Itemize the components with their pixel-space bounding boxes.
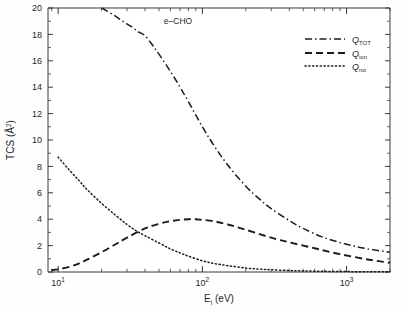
plot-frame — [48, 8, 390, 272]
x-axis-label: Ei (eV) — [204, 293, 234, 306]
tcs-chart: 02468101214161820 101102103 e–CHO QTOT Q… — [0, 0, 403, 313]
y-tick-label: 2 — [37, 241, 42, 251]
y-tick-label: 18 — [32, 30, 42, 40]
y-tick-label: 16 — [32, 56, 42, 66]
y-tick-label: 10 — [32, 135, 42, 145]
y-tick-label: 20 — [32, 3, 42, 13]
y-tick-label: 8 — [37, 162, 42, 172]
plot-area-background — [48, 8, 390, 272]
y-axis-label: TCS (Å2) — [4, 120, 16, 160]
x-tick-label: 102 — [196, 276, 210, 288]
y-tick-label: 0 — [37, 267, 42, 277]
y-tick-label: 6 — [37, 188, 42, 198]
y-tick-label: 12 — [32, 109, 42, 119]
y-tick-label: 4 — [37, 214, 42, 224]
chart-annotation: e–CHO — [164, 16, 193, 26]
x-tick-label: 103 — [340, 276, 354, 288]
y-tick-label: 14 — [32, 82, 42, 92]
x-tick-label: 101 — [51, 276, 65, 288]
figure-container: 02468101214161820 101102103 e–CHO QTOT Q… — [0, 0, 403, 313]
